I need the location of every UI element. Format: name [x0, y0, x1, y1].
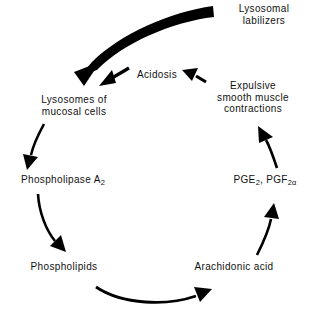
node-lysosomes-of-mucosal-cells: Lysosomes of mucosal cells: [18, 94, 130, 117]
node-pge2-pgf2alpha: PGE2, PGF2α: [218, 174, 312, 189]
pgf2alpha-separator: , PGF: [260, 174, 288, 185]
pge2-prefix: PGE: [233, 174, 255, 185]
arrow-acidosis-to-lysosomes: [99, 68, 129, 86]
phospholipase-a2-name: Phospholipase A: [21, 174, 101, 185]
arrow-prostaglandins-to-contractions: [258, 126, 277, 168]
arrow-arachidonic-to-prostaglandins: [257, 203, 279, 255]
node-phospholipase-a2: Phospholipase A2: [2, 174, 124, 189]
phospholipase-a2-subscript: 2: [101, 178, 105, 187]
node-arachidonic-acid: Arachidonic acid: [176, 261, 292, 273]
node-phospholipids: Phospholipids: [12, 261, 116, 273]
node-acidosis: Acidosis: [132, 69, 182, 81]
arrow-phospholipids-to-arachidonic: [96, 287, 212, 302]
arrow-lysosomes-to-phospholipase: [23, 124, 44, 170]
cycle-diagram: Lysosomal labilizers Acidosis Expulsive …: [0, 0, 314, 311]
arrow-phospholipase-to-phospholipids: [38, 194, 66, 252]
node-expulsive-smooth-muscle-contractions: Expulsive smooth muscle contractions: [196, 80, 310, 115]
node-lysosomal-labilizers: Lysosomal labilizers: [216, 3, 312, 26]
pgf2alpha-subscript: 2α: [288, 178, 297, 187]
